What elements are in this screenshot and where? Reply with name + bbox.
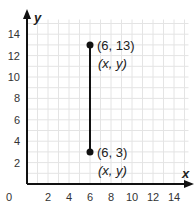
data-point xyxy=(87,41,94,48)
x-tick-label: 2 xyxy=(45,191,51,203)
origin-label: 0 xyxy=(6,191,12,203)
point-label: (6, 3) xyxy=(97,145,127,160)
x-axis-arrow-icon xyxy=(184,180,194,188)
x-tick-label: 10 xyxy=(126,191,138,203)
x-axis-label: x xyxy=(181,166,190,181)
y-tick-label: 14 xyxy=(8,28,20,40)
y-axis-arrow-icon xyxy=(23,9,31,19)
coordinate-plane: x y 0 2468101214 2468101214 (6, 13)(x, y… xyxy=(0,0,196,207)
x-tick-label: 8 xyxy=(108,191,114,203)
y-tick-label: 12 xyxy=(8,50,20,62)
point-sublabel: (x, y) xyxy=(98,56,127,71)
y-tick-label: 10 xyxy=(8,71,20,83)
point-label: (6, 13) xyxy=(97,38,135,53)
x-tick-label: 4 xyxy=(66,191,72,203)
x-tick-labels: 2468101214 xyxy=(45,191,180,203)
x-tick-label: 14 xyxy=(168,191,180,203)
data-point xyxy=(87,148,94,155)
y-tick-label: 2 xyxy=(14,157,20,169)
x-tick-label: 6 xyxy=(87,191,93,203)
y-tick-labels: 2468101214 xyxy=(8,28,20,168)
y-tick-label: 6 xyxy=(14,114,20,126)
point-sublabel: (x, y) xyxy=(98,163,127,178)
y-tick-label: 4 xyxy=(14,135,20,147)
x-tick-label: 12 xyxy=(147,191,159,203)
y-tick-label: 8 xyxy=(14,92,20,104)
y-axis-label: y xyxy=(33,10,42,25)
